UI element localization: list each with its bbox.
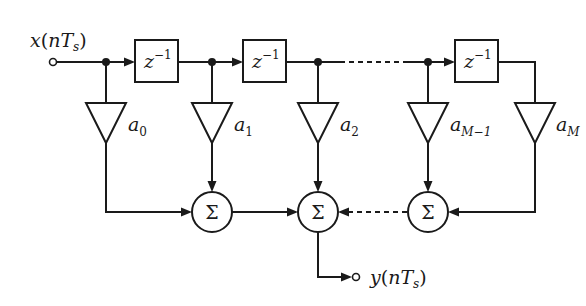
summer-2: Σ	[298, 192, 338, 232]
gain-a1: a1	[192, 103, 253, 143]
delay-block-2: z−1	[243, 40, 286, 82]
summer-3: Σ	[408, 192, 448, 232]
summer-1: Σ	[192, 192, 232, 232]
delay-block-3: z−1	[455, 40, 498, 82]
input-label: x(nTs)	[30, 29, 87, 54]
svg-text:a2: a2	[340, 113, 359, 139]
svg-text:a1: a1	[234, 113, 253, 139]
svg-text:aM: aM	[556, 113, 580, 139]
gain-aM-1: aM−1	[408, 103, 491, 143]
svg-text:Σ: Σ	[421, 201, 434, 223]
svg-text:a0: a0	[128, 113, 147, 139]
gain-a0: a0	[86, 103, 147, 143]
svg-text:Σ: Σ	[205, 201, 218, 223]
fir-filter-diagram: x(nTs) z−1 z−1 z−1 a0 a	[0, 0, 586, 306]
input-port	[50, 59, 57, 66]
delay-block-1: z−1	[135, 40, 178, 82]
gain-a2: a2	[298, 103, 359, 143]
svg-text:Σ: Σ	[311, 201, 324, 223]
svg-text:aM−1: aM−1	[450, 113, 491, 139]
output-label: y(nTs)	[369, 266, 427, 291]
gain-aM: aM	[515, 103, 580, 143]
output-port	[353, 274, 360, 281]
